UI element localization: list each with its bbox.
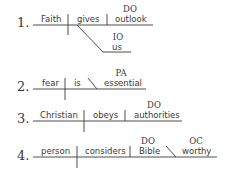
subject-word: Christian [40, 110, 78, 120]
diagram-1: 1. Faith gives DO outlook IO us [17, 4, 153, 52]
object-complement-word: worthy [182, 146, 211, 156]
predicate-slash [88, 78, 97, 89]
verb-word: gives [77, 14, 100, 24]
do-label: DO [147, 100, 161, 110]
complement-slash [166, 146, 176, 157]
io-label: IO [113, 32, 123, 42]
diagram-number: 3. [17, 111, 29, 126]
direct-object-word: Bible [139, 146, 160, 156]
direct-object-word: authorities [134, 110, 180, 120]
verb-word: considers [85, 146, 126, 156]
pa-label: PA [115, 68, 127, 78]
sentence-diagrams: 1. Faith gives DO outlook IO us 2. fear … [0, 0, 229, 175]
predicate-adjective-word: essential [104, 78, 142, 88]
verb-word: is [74, 78, 81, 88]
diagram-number: 2. [17, 79, 29, 94]
subject-word: person [41, 146, 70, 156]
diagram-number: 4. [17, 148, 29, 163]
diagram-number: 1. [17, 15, 29, 30]
do-label: DO [141, 136, 155, 146]
subject-word: Faith [41, 14, 61, 24]
do-label: DO [123, 4, 137, 14]
diagram-4: 4. person considers DO Bible OC worthy [17, 136, 217, 168]
oc-label: OC [189, 136, 202, 146]
diagram-3: 3. Christian obeys DO authorities [17, 100, 182, 132]
direct-object-word: outlook [115, 14, 147, 24]
subject-word: fear [42, 78, 59, 88]
indirect-object-word: us [112, 42, 122, 52]
diagram-2: 2. fear is PA essential [17, 68, 146, 100]
verb-word: obeys [93, 110, 119, 120]
